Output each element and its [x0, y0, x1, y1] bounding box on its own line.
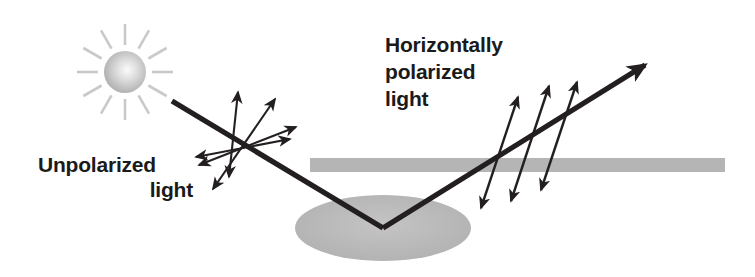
horizontally-polarized-label-line1: Horizontally — [385, 33, 503, 56]
sun-ray — [101, 95, 112, 113]
sun-body — [104, 51, 146, 93]
polarization-arrow — [481, 97, 518, 208]
polarization-diagram-figure: Unpolarized light Horizontally polarized… — [0, 0, 755, 277]
sun-ray — [148, 48, 166, 59]
horizontally-polarized-label-line3: light — [385, 87, 429, 110]
sun-ray — [148, 86, 166, 97]
vibration-arrow — [199, 127, 296, 165]
sun-icon — [77, 24, 173, 120]
unpolarized-vibration-star — [196, 92, 296, 189]
sun-ray — [139, 95, 150, 113]
polarization-arrow — [541, 82, 577, 190]
sun-ray — [83, 86, 101, 97]
sun-ray — [139, 30, 150, 48]
reflective-surface-bar — [310, 158, 725, 172]
horizontally-polarized-label-line2: polarized — [385, 60, 475, 83]
diagram-canvas: Unpolarized light Horizontally polarized… — [0, 0, 755, 277]
sun-ray — [83, 48, 101, 59]
unpolarized-light-label-line1: Unpolarized — [38, 153, 156, 176]
polarized-vibration-arrows — [481, 82, 577, 208]
sun-ray — [101, 30, 112, 48]
unpolarized-light-label-line2: light — [150, 178, 194, 201]
